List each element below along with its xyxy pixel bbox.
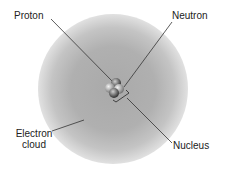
label-electron-cloud-line2: cloud bbox=[14, 139, 54, 150]
label-electron-cloud-line1: Electron bbox=[14, 128, 54, 139]
nucleus-leader-line bbox=[127, 98, 172, 143]
electron-cloud-leader-line bbox=[52, 120, 84, 131]
nucleus bbox=[105, 78, 124, 98]
label-proton: Proton bbox=[14, 10, 43, 21]
proton-leader-line bbox=[51, 19, 113, 82]
label-neutron: Neutron bbox=[172, 10, 208, 21]
neutron-leader-line bbox=[124, 22, 172, 87]
proton-particle bbox=[109, 88, 119, 98]
atom-diagram: Proton Neutron Electron cloud Nucleus bbox=[0, 0, 226, 169]
label-electron-cloud: Electron cloud bbox=[14, 128, 54, 150]
label-nucleus: Nucleus bbox=[173, 140, 209, 151]
